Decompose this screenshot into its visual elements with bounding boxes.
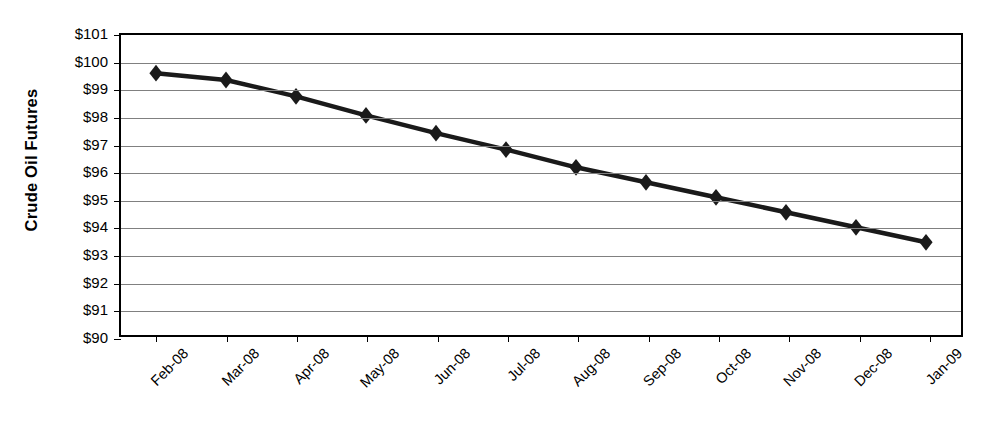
x-axis-tick-mark xyxy=(438,335,439,342)
data-point-marker xyxy=(219,72,232,89)
data-point-marker xyxy=(919,234,932,251)
gridline-horizontal xyxy=(121,284,961,285)
data-point-marker xyxy=(849,219,862,236)
y-axis-tick-mark xyxy=(114,173,121,174)
data-point-marker xyxy=(429,125,442,142)
gridline-horizontal xyxy=(121,173,961,174)
x-axis-tick-label: Feb-08 xyxy=(148,345,192,389)
gridline-horizontal xyxy=(121,311,961,312)
y-axis-tick-mark xyxy=(114,90,121,91)
x-axis-tick-label: Jun-08 xyxy=(430,345,473,388)
x-axis-tick-label: Dec-08 xyxy=(850,345,894,389)
x-axis-tick-mark xyxy=(508,335,509,342)
x-axis-tick-mark xyxy=(649,335,650,342)
y-axis-tick-mark xyxy=(114,284,121,285)
data-point-marker xyxy=(779,204,792,221)
y-axis-tick-label: $101 xyxy=(52,25,108,42)
x-axis-tick-mark xyxy=(156,335,157,342)
y-axis-tick-mark xyxy=(114,228,121,229)
gridline-horizontal xyxy=(121,63,961,64)
data-point-marker xyxy=(149,65,162,82)
series-polyline xyxy=(156,73,926,242)
y-axis-tick-mark xyxy=(114,256,121,257)
x-axis-tick-label: Jul-08 xyxy=(504,345,543,384)
y-axis-tick-label: $97 xyxy=(52,135,108,152)
x-axis-tick-label: Apr-08 xyxy=(290,345,332,387)
x-axis-tick-mark xyxy=(860,335,861,342)
y-axis-tick-mark xyxy=(114,35,121,36)
x-axis-tick-label: Jan-09 xyxy=(922,345,965,388)
gridline-horizontal xyxy=(121,90,961,91)
y-axis-tick-label: $95 xyxy=(52,190,108,207)
y-axis-tick-label: $93 xyxy=(52,246,108,263)
data-point-marker xyxy=(359,107,372,124)
y-axis-tick-label: $94 xyxy=(52,218,108,235)
x-axis-tick-mark xyxy=(367,335,368,342)
y-axis-tick-labels: $101$100$99$98$97$96$95$94$93$92$91$90 xyxy=(46,0,108,434)
y-axis-tick-label: $100 xyxy=(52,52,108,69)
x-axis-tick-mark xyxy=(297,335,298,342)
y-axis-tick-label: $92 xyxy=(52,273,108,290)
plot-area xyxy=(119,33,963,337)
y-axis-tick-mark xyxy=(114,311,121,312)
y-axis-tick-label: $91 xyxy=(52,301,108,318)
x-axis-tick-mark xyxy=(930,335,931,342)
data-point-marker xyxy=(709,189,722,206)
data-point-marker xyxy=(639,174,652,191)
x-axis-tick-label: Aug-08 xyxy=(569,345,613,389)
y-axis-tick-label: $98 xyxy=(52,107,108,124)
y-axis-tick-label: $99 xyxy=(52,80,108,97)
series-line-crude-oil-futures xyxy=(121,35,961,335)
x-axis-tick-label: May-08 xyxy=(357,345,403,391)
x-axis-tick-label: Mar-08 xyxy=(218,345,262,389)
y-axis-tick-mark xyxy=(114,201,121,202)
gridline-horizontal xyxy=(121,256,961,257)
gridline-horizontal xyxy=(121,201,961,202)
x-axis-tick-label: Nov-08 xyxy=(780,345,824,389)
crude-oil-futures-line-chart: Crude Oil Futures $101$100$99$98$97$96$9… xyxy=(0,0,987,434)
x-axis-tick-labels: Feb-08Mar-08Apr-08May-08Jun-08Jul-08Aug-… xyxy=(119,345,963,434)
x-axis-tick-label: Oct-08 xyxy=(712,345,754,387)
y-axis-tick-mark xyxy=(114,118,121,119)
gridline-horizontal xyxy=(121,118,961,119)
gridline-horizontal xyxy=(121,228,961,229)
y-axis-tick-mark xyxy=(114,146,121,147)
y-axis-tick-label: $96 xyxy=(52,163,108,180)
gridline-horizontal xyxy=(121,146,961,147)
x-axis-tick-mark xyxy=(789,335,790,342)
y-axis-tick-mark xyxy=(114,63,121,64)
x-axis-tick-mark xyxy=(578,335,579,342)
y-axis-tick-label: $90 xyxy=(52,329,108,346)
y-axis-title: Crude Oil Futures xyxy=(14,0,48,330)
x-axis-tick-mark xyxy=(227,335,228,342)
x-axis-tick-mark xyxy=(719,335,720,342)
data-point-marker xyxy=(499,141,512,158)
y-axis-tick-mark xyxy=(114,339,121,340)
x-axis-tick-label: Sep-08 xyxy=(639,345,683,389)
